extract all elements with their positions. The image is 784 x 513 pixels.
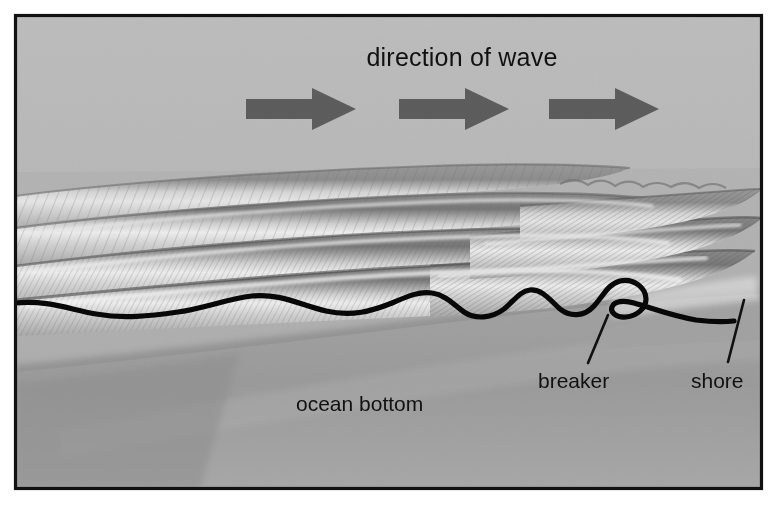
wave-diagram-figure: direction of wave breaker shore ocean bo… [0,0,784,513]
paper-grain-overlay [15,15,762,489]
illustration-canvas: direction of wave breaker shore ocean bo… [0,0,784,513]
picture-area: direction of wave breaker shore ocean bo… [15,15,762,489]
